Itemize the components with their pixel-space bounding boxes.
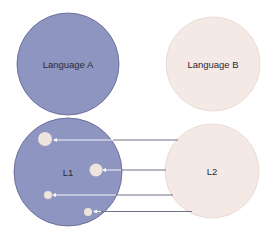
node-label-language-a: Language A bbox=[43, 59, 94, 70]
node-label-l2: L2 bbox=[207, 166, 218, 177]
l1-dot-1 bbox=[38, 132, 52, 146]
l1-dot-2 bbox=[90, 164, 103, 177]
node-language-a: Language A bbox=[17, 13, 119, 115]
node-label-language-b: Language B bbox=[187, 59, 238, 70]
l1-dot-3 bbox=[44, 191, 52, 199]
node-l2: L2 bbox=[165, 124, 259, 218]
node-language-b: Language B bbox=[166, 17, 260, 111]
node-label-l1: L1 bbox=[63, 167, 74, 178]
l1-dot-4 bbox=[84, 208, 92, 216]
node-l1: L1 bbox=[14, 118, 122, 226]
language-transfer-diagram: Language A Language B L1 L2 bbox=[0, 0, 273, 234]
